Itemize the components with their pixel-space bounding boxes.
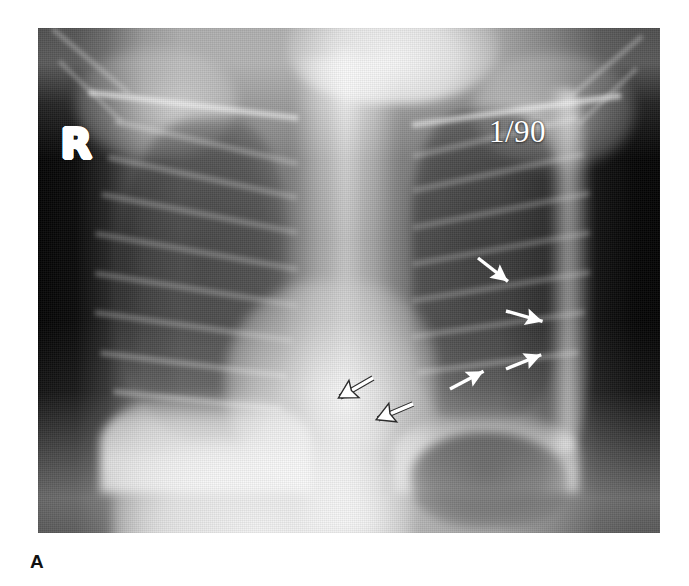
figure-root: R 1/90 (0, 0, 689, 586)
figure-label: A (30, 552, 44, 571)
chest-radiograph-image: R 1/90 (38, 28, 660, 533)
film-vertical-tone (38, 28, 660, 533)
